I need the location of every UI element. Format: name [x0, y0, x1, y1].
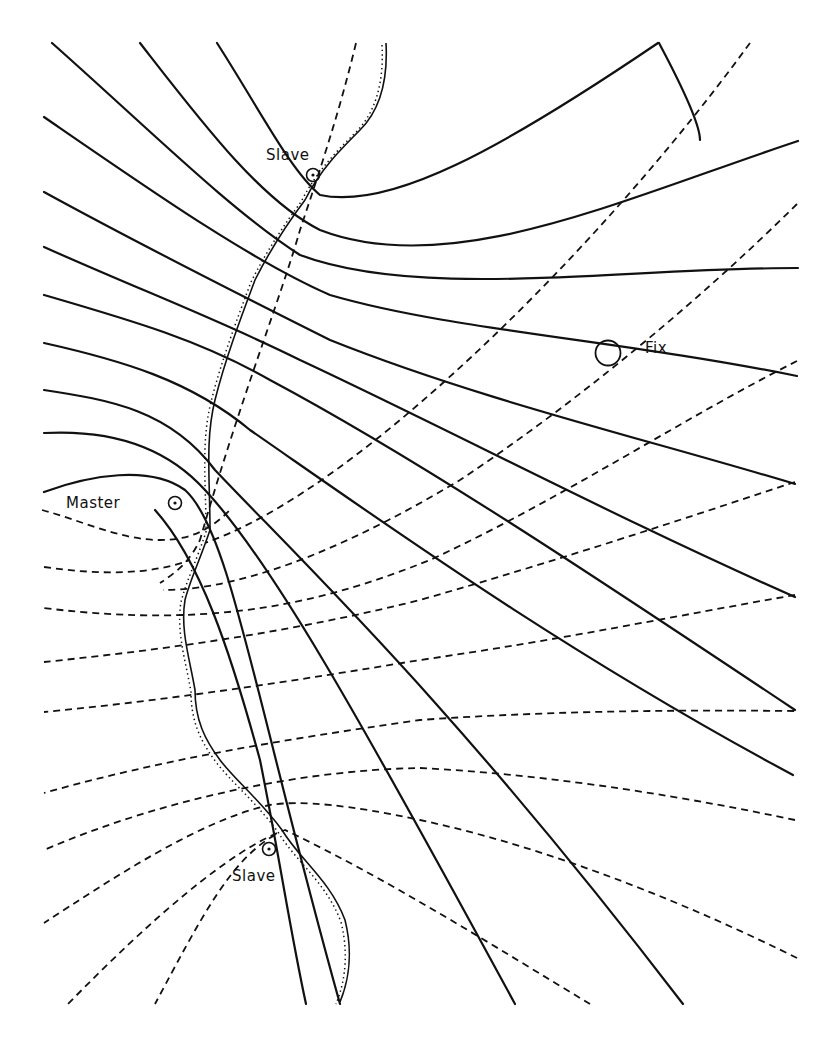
slave-north-label: Slave: [266, 146, 310, 164]
slave-south-label: Slave: [232, 867, 276, 885]
solid-line: [44, 390, 683, 1004]
station-dot-icon: [267, 847, 270, 850]
slave-north-station: Slave: [266, 146, 320, 182]
solid-line: [659, 43, 700, 140]
solid-line: [52, 43, 798, 279]
dashed-line: [44, 711, 794, 793]
dashed-line: [44, 361, 797, 615]
dashed-hyperbola-family: [42, 43, 797, 1004]
dashed-line: [160, 43, 356, 583]
solid-line: [44, 247, 795, 597]
fix-label: Fix: [645, 339, 667, 357]
dashed-line: [155, 835, 275, 1004]
station-dot-icon: [311, 173, 314, 176]
solid-hyperbola-family: [44, 43, 798, 1004]
hyperbolic-navigation-diagram: Slave Master Slave Fix: [0, 0, 839, 1040]
solid-line: [140, 43, 798, 246]
station-dot-icon: [173, 501, 176, 504]
master-label: Master: [66, 494, 121, 512]
dashed-line: [44, 560, 190, 572]
solid-line: [44, 192, 795, 484]
coastline-path: [184, 43, 387, 1002]
dashed-line: [68, 830, 590, 1004]
dashed-line: [163, 204, 797, 590]
master-station: Master: [66, 494, 182, 512]
dashed-line: [44, 595, 795, 712]
slave-south-station: Slave: [232, 843, 276, 886]
dashed-line: [44, 803, 797, 958]
dashed-line: [44, 768, 795, 850]
solid-line: [217, 43, 658, 197]
